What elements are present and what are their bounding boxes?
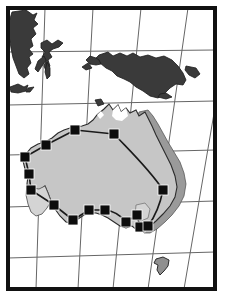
marker-square[interactable]	[70, 125, 80, 135]
marker-square[interactable]	[24, 169, 34, 179]
marker-square[interactable]	[143, 221, 153, 231]
map-figure	[0, 0, 234, 298]
marker-square[interactable]	[100, 205, 110, 215]
map-canvas	[0, 0, 234, 298]
marker-square[interactable]	[132, 210, 142, 220]
marker-square[interactable]	[26, 185, 36, 195]
marker-square[interactable]	[41, 140, 51, 150]
marker-square[interactable]	[121, 217, 131, 227]
marker-square[interactable]	[68, 215, 78, 225]
marker-square[interactable]	[158, 185, 168, 195]
marker-square[interactable]	[20, 152, 30, 162]
marker-square[interactable]	[109, 129, 119, 139]
marker-square[interactable]	[84, 205, 94, 215]
marker-square[interactable]	[49, 200, 59, 210]
